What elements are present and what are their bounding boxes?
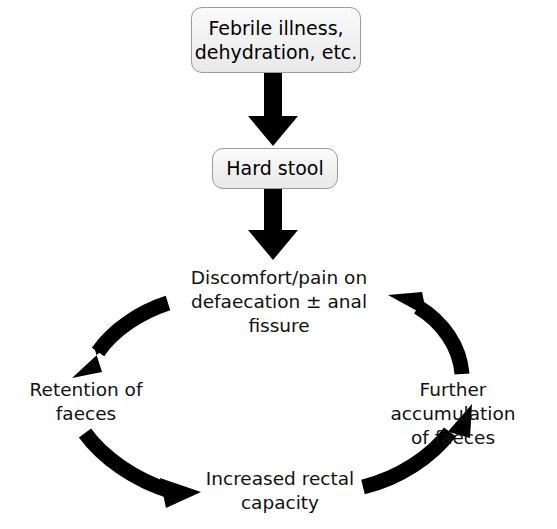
- node-discomfort-pain: Discomfort/pain on defaecation ± anal fi…: [168, 266, 390, 338]
- node-retention-of-faeces: Retention of faeces: [10, 378, 162, 426]
- arrow-retention-to-increased-capacity: [85, 433, 201, 508]
- node-hard-stool: Hard stool: [212, 148, 338, 189]
- arrow-febrile-to-hard-stool: [248, 72, 298, 146]
- node-febrile-illness: Febrile illness, dehydration, etc.: [191, 7, 361, 73]
- arrow-discomfort-to-retention: [72, 303, 168, 378]
- arrow-hard-stool-to-discomfort: [248, 188, 298, 260]
- node-further-accumulation: Further accumulation of faeces: [358, 378, 548, 450]
- node-increased-rectal-capacity: Increased rectal capacity: [195, 467, 365, 515]
- diagram-canvas: Febrile illness, dehydration, etc. Hard …: [0, 0, 557, 529]
- arrow-further-accumulation-to-discomfort: [388, 292, 462, 374]
